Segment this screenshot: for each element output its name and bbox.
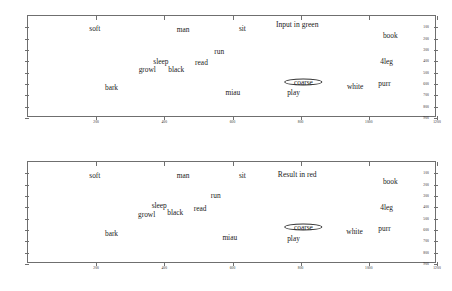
word-label-miau: miau bbox=[222, 233, 237, 242]
word-label-man: man bbox=[177, 171, 190, 180]
x-tick-mark-top bbox=[164, 16, 165, 20]
chart-panel-input: 1002003004005006007008009002004006008001… bbox=[0, 0, 452, 145]
y-tick-mark-right bbox=[434, 107, 438, 108]
y-tick-mark-right bbox=[434, 84, 438, 85]
y-tick-mark-right bbox=[434, 253, 438, 254]
x-tick-label: 800 bbox=[298, 266, 304, 270]
y-tick-mark bbox=[25, 253, 29, 254]
x-tick-mark-top bbox=[437, 162, 438, 166]
y-tick-mark bbox=[25, 185, 29, 186]
y-tick-mark bbox=[25, 173, 29, 174]
x-tick-label: 200 bbox=[93, 266, 99, 270]
x-tick-mark-top bbox=[233, 16, 234, 20]
word-label-growl: growl bbox=[139, 65, 156, 74]
x-tick-label: 800 bbox=[298, 120, 304, 124]
word-label-coarse: coarse bbox=[294, 222, 313, 231]
y-tick-mark bbox=[25, 107, 29, 108]
x-tick-mark-top bbox=[369, 16, 370, 20]
word-label-4leg: 4leg bbox=[380, 57, 393, 66]
word-label-white: white bbox=[347, 82, 363, 91]
x-tick-label: 400 bbox=[161, 266, 167, 270]
y-tick-label: 800 bbox=[423, 251, 429, 255]
y-tick-mark bbox=[25, 73, 29, 74]
y-tick-mark-right bbox=[434, 230, 438, 231]
word-label-run: run bbox=[214, 46, 224, 55]
word-label-read: read bbox=[195, 58, 208, 67]
word-label-soft: soft bbox=[89, 171, 100, 180]
plot-area-input: 1002003004005006007008009002004006008001… bbox=[27, 15, 436, 117]
y-tick-mark-right bbox=[434, 39, 438, 40]
y-tick-mark-right bbox=[434, 27, 438, 28]
word-label-book: book bbox=[383, 177, 398, 186]
y-tick-label: 100 bbox=[423, 25, 429, 29]
y-tick-mark-right bbox=[434, 219, 438, 220]
word-label-bark: bark bbox=[105, 228, 118, 237]
x-tick-label: 600 bbox=[230, 266, 236, 270]
x-tick-mark-top bbox=[301, 162, 302, 166]
y-tick-label: 500 bbox=[423, 71, 429, 75]
y-tick-mark bbox=[25, 61, 29, 62]
y-tick-mark-right bbox=[434, 50, 438, 51]
word-label-book: book bbox=[383, 30, 398, 39]
y-tick-mark bbox=[25, 230, 29, 231]
y-tick-mark-right bbox=[434, 173, 438, 174]
word-label-sleep: sleep bbox=[152, 201, 167, 210]
y-tick-mark-right bbox=[434, 207, 438, 208]
word-label-man: man bbox=[177, 24, 190, 33]
x-tick-mark-top bbox=[96, 162, 97, 166]
word-label-sit: sit bbox=[239, 24, 246, 33]
x-tick-mark-top bbox=[96, 16, 97, 20]
word-label-purr: purr bbox=[378, 78, 390, 87]
x-tick-mark-top bbox=[233, 162, 234, 166]
y-tick-label: 800 bbox=[423, 105, 429, 109]
x-tick-mark-top bbox=[369, 162, 370, 166]
y-tick-mark bbox=[25, 50, 29, 51]
x-tick-label: 600 bbox=[230, 120, 236, 124]
x-tick-label: 200 bbox=[93, 120, 99, 124]
word-label-coarse: coarse bbox=[294, 77, 313, 86]
word-label-miau: miau bbox=[225, 87, 240, 96]
y-tick-label: 600 bbox=[423, 82, 429, 86]
y-tick-mark bbox=[25, 264, 29, 265]
y-tick-mark-right bbox=[434, 95, 438, 96]
y-tick-mark bbox=[25, 95, 29, 96]
y-tick-mark-right bbox=[434, 241, 438, 242]
x-tick-mark-top bbox=[437, 16, 438, 20]
y-tick-mark bbox=[25, 219, 29, 220]
y-tick-label: 300 bbox=[423, 48, 429, 52]
chart-annotation: Input in green bbox=[276, 19, 319, 28]
y-tick-mark bbox=[25, 27, 29, 28]
word-label-play: play bbox=[287, 233, 300, 242]
y-tick-mark bbox=[25, 207, 29, 208]
word-embedding-figure: 1002003004005006007008009002004006008001… bbox=[0, 0, 452, 291]
y-tick-label: 200 bbox=[423, 37, 429, 41]
y-tick-mark bbox=[25, 39, 29, 40]
y-tick-label: 500 bbox=[423, 217, 429, 221]
y-tick-mark bbox=[25, 196, 29, 197]
y-tick-label: 600 bbox=[423, 228, 429, 232]
y-tick-label: 900 bbox=[423, 116, 429, 120]
y-tick-label: 300 bbox=[423, 194, 429, 198]
chart-annotation: Result in red bbox=[278, 170, 317, 179]
word-label-4leg: 4leg bbox=[380, 202, 393, 211]
y-tick-mark-right bbox=[434, 196, 438, 197]
chart-panel-result: 1002003004005006007008009002004006008001… bbox=[0, 146, 452, 291]
word-label-growl: growl bbox=[138, 210, 155, 219]
y-tick-label: 100 bbox=[423, 171, 429, 175]
y-tick-label: 900 bbox=[423, 262, 429, 266]
y-tick-label: 400 bbox=[423, 205, 429, 209]
plot-area-result: 1002003004005006007008009002004006008001… bbox=[27, 161, 436, 263]
word-label-play: play bbox=[287, 88, 300, 97]
x-tick-label: 1200 bbox=[433, 120, 441, 124]
y-tick-label: 700 bbox=[423, 239, 429, 243]
word-label-soft: soft bbox=[89, 24, 100, 33]
y-tick-mark bbox=[25, 118, 29, 119]
word-label-white: white bbox=[346, 227, 362, 236]
word-label-read: read bbox=[194, 204, 207, 213]
word-label-sit: sit bbox=[239, 171, 246, 180]
word-label-black: black bbox=[168, 65, 184, 74]
y-tick-mark bbox=[25, 241, 29, 242]
y-tick-mark-right bbox=[434, 73, 438, 74]
x-tick-mark-top bbox=[164, 162, 165, 166]
x-tick-label: 1200 bbox=[433, 266, 441, 270]
